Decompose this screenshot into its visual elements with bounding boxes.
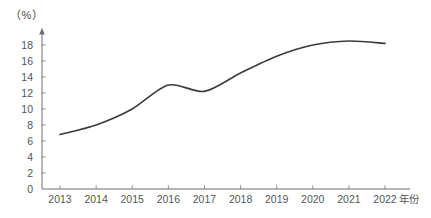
y-axis-tick-label: 18 xyxy=(21,39,33,51)
y-axis-tick-label: 16 xyxy=(21,55,33,67)
chart-plot-area: 024681012141618 201320142015201620172018… xyxy=(0,0,431,218)
y-axis-tick-label: 14 xyxy=(21,71,33,83)
y-axis-tick-label: 0 xyxy=(27,183,33,195)
line-chart: （%） 024681012141618 20132014201520162017… xyxy=(0,0,431,218)
x-axis-tick-marks xyxy=(60,185,385,189)
y-axis-tick-marks xyxy=(42,45,46,173)
y-axis-arrow-head xyxy=(39,28,45,35)
y-axis-tick-label: 12 xyxy=(21,87,33,99)
x-axis-tick-label: 2018 xyxy=(229,193,253,205)
x-axis-title: 年份 xyxy=(399,193,420,205)
x-axis-tick-label: 2021 xyxy=(337,193,361,205)
y-axis-tick-label: 8 xyxy=(27,119,33,131)
x-axis-tick-label: 2020 xyxy=(301,193,325,205)
x-axis-tick-label: 2014 xyxy=(84,193,108,205)
x-axis-tick-label: 2013 xyxy=(48,193,72,205)
data-series-line xyxy=(60,41,385,135)
x-axis-tick-labels: 2013201420152016201720182019202020212022 xyxy=(48,193,397,205)
x-axis-tick-label: 2017 xyxy=(193,193,217,205)
y-axis-tick-label: 6 xyxy=(27,135,33,147)
x-axis-tick-label: 2019 xyxy=(265,193,289,205)
x-axis-tick-label: 2022 xyxy=(373,193,397,205)
y-axis-tick-label: 4 xyxy=(27,151,33,163)
x-axis-tick-label: 2016 xyxy=(157,193,181,205)
y-axis-tick-label: 2 xyxy=(27,167,33,179)
x-axis-tick-label: 2015 xyxy=(121,193,145,205)
y-axis-tick-label: 10 xyxy=(21,103,33,115)
y-axis-tick-labels: 024681012141618 xyxy=(21,39,33,195)
